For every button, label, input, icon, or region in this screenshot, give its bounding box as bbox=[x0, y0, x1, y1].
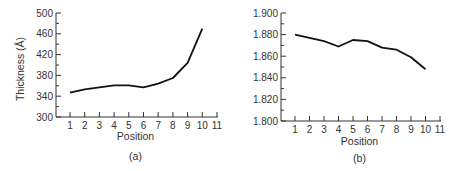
panel-label: (b) bbox=[353, 152, 366, 164]
x-tick-label: 7 bbox=[155, 120, 161, 131]
y-tick-label: 460 bbox=[36, 28, 53, 39]
y-tick-label: 1.880 bbox=[253, 29, 278, 40]
panel-label: (a) bbox=[129, 150, 142, 162]
x-tick-label: 11 bbox=[435, 124, 446, 135]
x-tick-label: 4 bbox=[336, 124, 342, 135]
x-tick-label: 1 bbox=[67, 120, 73, 131]
x-axis-title: Position bbox=[341, 135, 379, 147]
data-line bbox=[70, 29, 202, 93]
x-tick-label: 3 bbox=[321, 124, 327, 135]
x-tick-label: 9 bbox=[408, 124, 414, 135]
x-tick-label: 10 bbox=[420, 124, 432, 135]
y-tick-label: 300 bbox=[36, 112, 53, 123]
x-axis-title: Position bbox=[117, 130, 155, 142]
x-tick-label: 9 bbox=[185, 120, 191, 131]
chart-panel-a: 3003403804204605001234567891011Position(… bbox=[14, 8, 223, 163]
x-tick-label: 3 bbox=[97, 120, 103, 131]
x-tick-label: 2 bbox=[82, 120, 88, 131]
x-tick-label: 2 bbox=[307, 124, 313, 135]
x-tick-label: 10 bbox=[197, 120, 209, 131]
x-tick-label: 5 bbox=[350, 124, 356, 135]
y-tick-label: 340 bbox=[36, 91, 53, 102]
x-tick-label: 8 bbox=[394, 124, 400, 135]
y-tick-label: 1.820 bbox=[253, 94, 278, 105]
x-tick-label: 1 bbox=[292, 124, 298, 135]
y-tick-label: 1.840 bbox=[253, 72, 278, 83]
y-tick-label: 380 bbox=[36, 70, 53, 81]
y-tick-label: 500 bbox=[36, 8, 53, 19]
y-tick-label: 1.900 bbox=[253, 8, 278, 19]
chart-panel-b: 1.8001.8201.8401.8601.8801.9001234567891… bbox=[253, 8, 446, 165]
x-tick-label: 8 bbox=[170, 120, 176, 131]
y-tick-label: 1.800 bbox=[253, 116, 278, 127]
x-tick-label: 7 bbox=[379, 124, 385, 135]
y-tick-label: 420 bbox=[36, 49, 53, 60]
x-tick-label: 11 bbox=[212, 120, 223, 131]
y-axis-title: Thickness (Å) bbox=[14, 37, 26, 101]
y-tick-label: 1.860 bbox=[253, 51, 278, 62]
x-tick-label: 6 bbox=[365, 124, 371, 135]
figure: 3003403804204605001234567891011Position(… bbox=[0, 0, 457, 171]
data-line bbox=[295, 35, 426, 70]
